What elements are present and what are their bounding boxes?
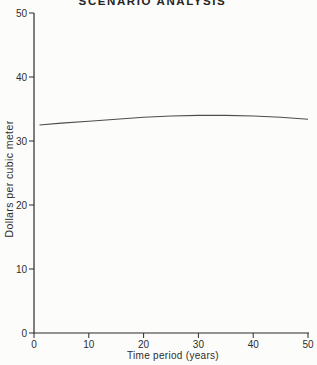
y-tick-label: 10: [16, 264, 28, 275]
plot-area: 0102030405001020304050: [0, 0, 317, 365]
x-tick-label: 30: [193, 339, 205, 350]
x-axis-label: Time period (years): [29, 350, 317, 361]
x-tick-label: 10: [83, 339, 95, 350]
y-tick-label: 30: [16, 136, 28, 147]
data-line-scenario-price-path: [40, 115, 309, 125]
x-tick-label: 40: [248, 339, 260, 350]
y-tick-label: 50: [16, 8, 28, 19]
x-tick-label: 0: [31, 339, 37, 350]
y-tick-label: 20: [16, 200, 28, 211]
chart-figure: SCENARIO ANALYSIS Dollars per cubic mete…: [0, 0, 317, 365]
y-tick-label: 40: [16, 72, 28, 83]
y-tick-label: 0: [21, 328, 27, 339]
x-tick-label: 50: [302, 339, 314, 350]
axis-spine: [34, 13, 309, 333]
x-tick-label: 20: [138, 339, 150, 350]
